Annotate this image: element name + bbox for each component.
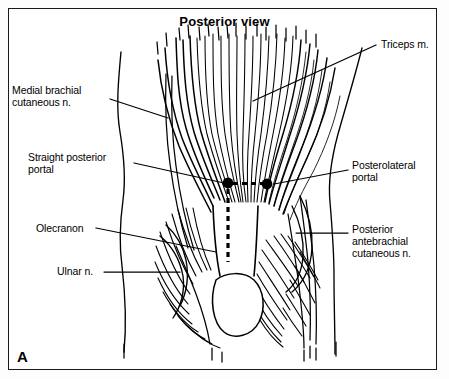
panel-letter: A (17, 348, 28, 365)
olecranon-prominence (213, 274, 264, 336)
leader-triceps (253, 45, 376, 101)
triceps-muscle-fibers (157, 23, 340, 220)
figure-title: Posterior view (0, 14, 449, 29)
triceps-tendon (213, 206, 258, 276)
leader-straight-posterior (134, 163, 224, 183)
anatomy-illustration (0, 0, 449, 379)
label-ulnar-nerve: Ulnar n. (57, 265, 93, 277)
leader-lines (96, 45, 376, 272)
figure-panel: Posterior view Medial brachial cutaneous… (0, 0, 449, 379)
label-olecranon: Olecranon (36, 222, 84, 234)
label-posterolateral-portal: Posterolateral portal (352, 159, 415, 183)
label-medial-brachial-cutaneous-nerve: Medial brachial cutaneous n. (12, 84, 81, 108)
posterolateral-portal-dot (262, 179, 273, 190)
label-triceps-muscle: Triceps m. (381, 38, 429, 50)
label-posterior-antebrachial-cutaneous-nerve: Posterior antebrachial cutaneous n. (352, 223, 411, 260)
label-straight-posterior-portal: Straight posterior portal (28, 151, 106, 175)
